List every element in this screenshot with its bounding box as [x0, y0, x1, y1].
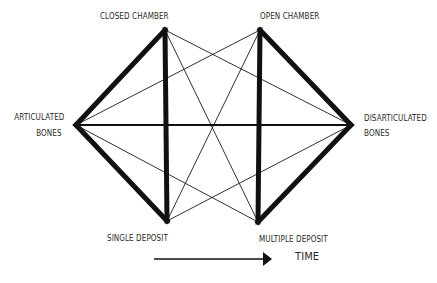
- label-disarticulated-line1: DISARTICULATED: [364, 113, 427, 123]
- label-single-deposit: SINGLE DEPOSIT: [107, 233, 168, 243]
- label-articulated-line1: ARTICULATED: [14, 112, 64, 122]
- label-time: TIME: [295, 252, 319, 262]
- label-closed-chamber: CLOSED CHAMBER: [100, 11, 169, 21]
- thick-edge-closed_chamber-articulated_bones: [76, 30, 165, 125]
- time-arrow: [154, 252, 272, 266]
- label-multiple-deposit: MULTIPLE DEPOSIT: [259, 234, 328, 244]
- arrow-head-icon: [263, 252, 272, 266]
- label-articulated-line2: BONES: [37, 128, 62, 138]
- label-open-chamber: OPEN CHAMBER: [260, 11, 319, 21]
- thick-edge-closed_chamber-single_deposit: [165, 30, 167, 221]
- label-disarticulated-line2: BONES: [364, 128, 389, 138]
- thick-edge-open_chamber-disarticulated_bones: [260, 30, 351, 125]
- thick-edge-disarticulated_bones-multiple_deposit: [258, 125, 351, 222]
- thick-edge-articulated_bones-single_deposit: [76, 125, 167, 221]
- network-diagram: [0, 0, 437, 283]
- thick-edge-open_chamber-multiple_deposit: [258, 30, 260, 222]
